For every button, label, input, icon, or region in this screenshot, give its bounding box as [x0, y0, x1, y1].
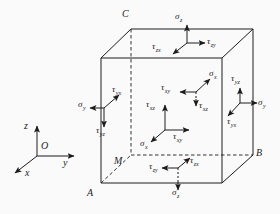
subscript: z	[180, 17, 182, 23]
sigma-glyph: σ	[78, 99, 82, 109]
label-front-sigma-x: σx	[140, 139, 148, 148]
subscript: xy	[165, 88, 170, 94]
tau-glyph: τ	[227, 116, 230, 126]
subscript: yx	[116, 90, 121, 96]
subscript: xy	[177, 137, 182, 143]
tau-glyph: τ	[161, 82, 164, 92]
tau-glyph: τ	[96, 125, 99, 135]
subscript: zx	[156, 47, 161, 53]
tau-glyph: τ	[231, 73, 234, 83]
stress-element-figure: C A M B O z y x σz τzy τzx σy τyx τyz σx…	[0, 0, 280, 214]
label-right-sigma-y: σy	[258, 98, 266, 107]
label-corner-C: C	[122, 9, 129, 19]
label-bottom-tau-zx: τzx	[190, 156, 199, 165]
tau-glyph: τ	[112, 84, 115, 94]
subscript: y	[83, 105, 86, 111]
label-top-tau-zy: τzy	[207, 37, 216, 46]
subscript: yx	[231, 122, 236, 128]
arrow-bottom-tau-zx	[178, 158, 190, 168]
tau-glyph: τ	[152, 41, 155, 51]
subscript: zy	[211, 42, 216, 48]
label-back-tau-xy: τxy	[161, 83, 170, 92]
sigma-glyph: σ	[172, 187, 176, 197]
subscript: xz	[150, 105, 155, 111]
subscript: zx	[194, 161, 199, 167]
tau-glyph: τ	[149, 161, 152, 171]
subscript: x	[214, 74, 217, 80]
label-bottom-sigma-z: σz	[172, 188, 179, 197]
arrow-right-tau-yx	[228, 103, 240, 116]
tau-glyph: τ	[173, 131, 176, 141]
sigma-glyph: σ	[209, 68, 213, 78]
label-axis-x: x	[25, 168, 29, 178]
cube-edge-bottom-right-slant	[222, 155, 253, 183]
label-front-tau-xy: τxy	[173, 132, 182, 141]
label-right-tau-yx: τyx	[227, 117, 236, 126]
subscript: zy	[153, 167, 158, 173]
label-front-tau-xz: τxz	[146, 100, 155, 109]
label-back-sigma-x: σx	[209, 69, 217, 78]
label-top-sigma-z: σz	[175, 12, 182, 21]
label-corner-A: A	[87, 188, 93, 198]
label-axis-z: z	[24, 121, 28, 131]
subscript: yz	[235, 79, 240, 85]
cube-edge-top-left-slant	[101, 29, 131, 58]
tau-glyph: τ	[190, 155, 193, 165]
subscript: z	[177, 193, 179, 199]
label-right-tau-yz: τyz	[231, 74, 240, 83]
tau-glyph: τ	[146, 99, 149, 109]
arrow-top-tau-zx	[173, 43, 187, 54]
cube-edge-top-right-slant	[222, 29, 253, 58]
sigma-glyph: σ	[258, 97, 262, 107]
sigma-glyph: σ	[140, 138, 144, 148]
tau-glyph: τ	[207, 36, 210, 46]
subscript: xz	[203, 106, 208, 112]
label-corner-M: M	[114, 156, 122, 166]
subscript: x	[145, 144, 148, 150]
label-axis-origin: O	[41, 141, 48, 151]
label-bottom-tau-zy: τzy	[149, 162, 158, 171]
arrow-front-sigma-x	[151, 130, 165, 142]
arrow-left-tau-yx	[104, 95, 119, 108]
subscript: y	[263, 103, 266, 109]
arrow-back-sigma-x	[196, 79, 210, 92]
sigma-glyph: σ	[175, 11, 179, 21]
cube-line-art	[0, 0, 280, 214]
label-corner-B: B	[256, 148, 262, 158]
label-back-tau-xz: τxz	[199, 101, 208, 110]
label-top-tau-zx: τzx	[152, 42, 161, 51]
label-left-tau-yz: τyz	[96, 126, 105, 135]
label-left-tau-yx: τyx	[112, 85, 121, 94]
label-axis-y: y	[63, 158, 67, 168]
tau-glyph: τ	[199, 100, 202, 110]
subscript: yz	[100, 131, 105, 137]
label-left-sigma-y: σy	[78, 100, 86, 109]
